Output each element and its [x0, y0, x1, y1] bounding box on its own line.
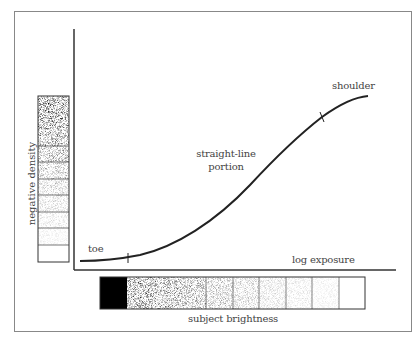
- diagram-graphics: [0, 0, 419, 346]
- x-axis-label: log exposure: [292, 254, 355, 265]
- toe-label: toe: [88, 243, 103, 254]
- characteristic-curve: [80, 96, 368, 263]
- straight-line-label-1: straight-line: [196, 148, 256, 159]
- shoulder-label: shoulder: [332, 80, 375, 91]
- subject-brightness-strip: [100, 277, 365, 309]
- negative-density-strip: [38, 96, 69, 262]
- subject-brightness-label: subject brightness: [183, 313, 283, 324]
- y-axis-label: negative density: [26, 134, 37, 234]
- straight-line-label-2: portion: [196, 161, 256, 172]
